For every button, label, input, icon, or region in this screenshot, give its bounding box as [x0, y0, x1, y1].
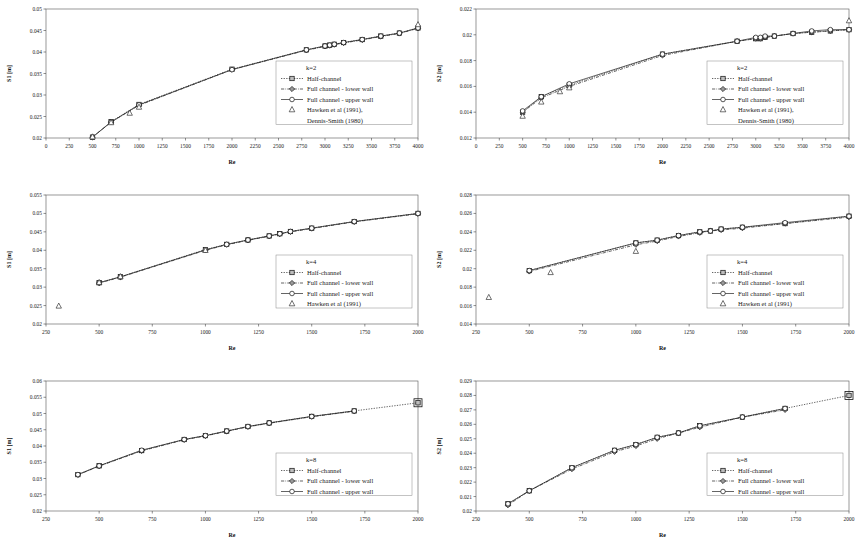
legend-marker-square	[721, 76, 725, 80]
legend-marker-circle	[290, 489, 295, 494]
legend-marker-triangle	[720, 107, 726, 112]
chart-panel-p4: 0.0140.0160.0180.020.0220.0240.0260.0282…	[430, 186, 861, 372]
chart-svg-p6: 0.020.0210.0220.0230.0240.0250.0260.0270…	[430, 372, 861, 559]
legend: k=4Half-channelFull channel - lower wall…	[707, 255, 843, 308]
x-tick-label: 2500	[273, 143, 284, 149]
x-tick-label: 1000	[200, 329, 211, 335]
x-tick-label: 2750	[727, 143, 738, 149]
x-tick-label: 1500	[610, 143, 621, 149]
x-tick-label: 2000	[657, 143, 668, 149]
y-axis-ticks: 0.020.0250.030.0350.040.0450.050.055	[30, 192, 46, 327]
x-tick-label: 250	[42, 329, 50, 335]
legend-entry-label: Full channel - upper wall	[738, 96, 804, 103]
x-tick-label: 500	[95, 329, 103, 335]
data-point-circle	[698, 423, 703, 428]
legend-k-label: k=2	[737, 64, 747, 71]
x-tick-label: 1500	[180, 143, 191, 149]
y-tick-label: 0.05	[33, 411, 43, 417]
x-tick-label: 1000	[134, 143, 145, 149]
legend-k-label: k=4	[737, 258, 748, 265]
x-axis-ticks: 25050075010001250150017502000	[472, 511, 855, 522]
x-tick-label: 4000	[413, 143, 424, 149]
data-point-circle	[740, 225, 745, 230]
data-point-circle	[735, 39, 740, 44]
legend-k-label: k=8	[306, 456, 317, 463]
x-tick-label: 3500	[366, 143, 377, 149]
data-point-circle	[352, 409, 357, 414]
data-point-circle	[332, 42, 337, 47]
legend-entry-label: Dennis-Smith (1980)	[738, 117, 794, 125]
data-point-circle	[323, 44, 328, 49]
legend-marker-square	[290, 270, 294, 274]
y-tick-label: 0.03	[33, 476, 43, 482]
legend-entry-label: Full channel - lower wall	[307, 85, 373, 92]
legend-entry-label: Full channel - lower wall	[307, 477, 373, 484]
y-tick-label: 0.045	[30, 427, 42, 433]
data-point-circle	[847, 27, 852, 32]
legend-marker-circle	[290, 291, 295, 296]
y-axis-ticks: 0.0140.0160.0180.020.0220.0240.0260.028	[460, 192, 476, 327]
y-tick-label: 0.05	[33, 210, 43, 216]
series-line	[93, 28, 419, 137]
series-3	[90, 26, 420, 140]
legend-entry-label: Hawken et al (1991)	[738, 300, 792, 308]
x-tick-label: 1250	[253, 329, 264, 335]
y-tick-label: 0.028	[460, 192, 472, 198]
data-point-circle	[719, 227, 724, 232]
chart-panel-p3: 0.020.0250.030.0350.040.0450.050.0552505…	[0, 186, 430, 372]
x-tick-label: 2000	[844, 516, 855, 522]
data-point-triangle	[633, 248, 638, 253]
legend-k-label: k=2	[306, 64, 316, 71]
series-line	[99, 213, 418, 282]
legend-entry-label: Half-channel	[738, 75, 773, 82]
data-point-circle	[139, 448, 144, 453]
legend-marker-triangle	[289, 301, 295, 306]
x-tick-label: 2250	[680, 143, 691, 149]
data-point-square	[416, 401, 420, 405]
y-tick-label: 0.021	[460, 494, 472, 500]
data-point-circle	[570, 465, 575, 470]
data-point-circle	[698, 230, 703, 235]
series-line	[529, 216, 849, 270]
chart-svg-p5: 0.020.0250.030.0350.040.0450.050.0550.06…	[0, 372, 430, 559]
y-axis-label: S1 [m]	[6, 251, 13, 268]
x-tick-label: 3250	[774, 143, 785, 149]
x-axis-label: Re	[229, 532, 236, 538]
data-point-circle	[527, 268, 532, 273]
plot-frame	[476, 195, 849, 324]
x-tick-label: 3250	[343, 143, 354, 149]
x-tick-label: 3750	[389, 143, 400, 149]
legend-entry-label: Half-channel	[738, 467, 773, 474]
chart-svg-p2: 0.0120.0140.0160.0180.020.02202505007501…	[430, 0, 861, 186]
y-axis-label: S2 [m]	[436, 251, 443, 268]
legend-marker-diamond	[720, 86, 725, 91]
data-point-circle	[278, 231, 283, 236]
x-tick-label: 1000	[200, 516, 211, 522]
x-tick-label: 250	[472, 329, 480, 335]
x-tick-label: 500	[519, 143, 527, 149]
y-axis-ticks: 0.0120.0140.0160.0180.020.022	[460, 6, 476, 141]
data-point-circle	[97, 464, 102, 469]
legend-marker-diamond	[289, 86, 294, 91]
x-tick-label: 1500	[306, 329, 317, 335]
y-tick-label: 0.025	[460, 436, 472, 442]
legend-marker-square	[290, 76, 294, 80]
x-axis-label: Re	[659, 345, 666, 351]
series-line	[99, 213, 418, 282]
data-point-circle	[763, 34, 768, 39]
data-point-circle	[783, 220, 788, 225]
y-tick-label: 0.04	[33, 247, 43, 253]
x-tick-label: 1500	[737, 329, 748, 335]
legend: k=2Half-channelFull channel - lower wall…	[707, 61, 843, 125]
legend: k=8Half-channelFull channel - lower wall…	[707, 453, 843, 496]
y-tick-label: 0.029	[460, 378, 472, 384]
data-point-circle	[304, 48, 309, 53]
data-point-circle	[740, 415, 745, 420]
data-point-circle	[847, 214, 852, 219]
x-tick-label: 250	[472, 516, 480, 522]
series-1	[76, 401, 421, 477]
y-tick-label: 0.026	[460, 421, 472, 427]
series-line	[99, 214, 418, 283]
data-point-circle	[246, 238, 251, 243]
x-tick-label: 1750	[790, 516, 801, 522]
